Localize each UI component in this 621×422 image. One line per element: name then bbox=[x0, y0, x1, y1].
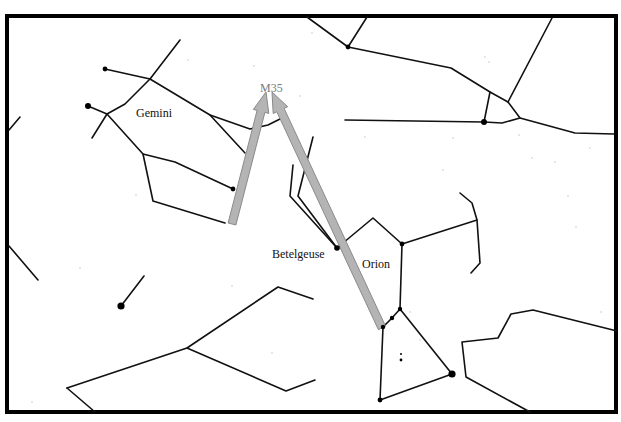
star-horizontal-star bbox=[481, 119, 487, 125]
faint-star bbox=[531, 157, 533, 159]
faint-star bbox=[271, 352, 273, 354]
star-top-star bbox=[346, 45, 351, 50]
faint-star bbox=[79, 267, 81, 269]
star-belt-1 bbox=[381, 325, 385, 329]
faint-star bbox=[135, 194, 137, 196]
star-gemini-star bbox=[231, 187, 236, 192]
faint-star bbox=[31, 401, 33, 403]
faint-star bbox=[231, 285, 233, 287]
star-bellatrix bbox=[400, 242, 405, 247]
star-pollux-area bbox=[103, 67, 108, 72]
faint-star bbox=[452, 137, 454, 139]
faint-star bbox=[484, 56, 486, 58]
star-betelgeuse bbox=[334, 245, 340, 251]
star-saiph bbox=[378, 398, 383, 403]
faint-star bbox=[518, 134, 520, 136]
faint-star bbox=[187, 59, 189, 61]
star-rigel bbox=[448, 370, 455, 377]
faint-star bbox=[364, 136, 366, 138]
star-castor bbox=[85, 103, 91, 109]
label-orion: Orion bbox=[362, 257, 390, 271]
faint-star bbox=[575, 226, 577, 228]
star-belt-3 bbox=[398, 307, 402, 311]
label-m35: M35 bbox=[260, 81, 283, 95]
faint-star bbox=[419, 339, 421, 341]
faint-star bbox=[600, 311, 602, 313]
star-chart: Gemini M35 Betelgeuse Orion bbox=[0, 0, 621, 422]
star-orion-nebula-1 bbox=[400, 359, 403, 362]
star-procyon-area bbox=[117, 302, 124, 309]
faint-star bbox=[409, 311, 411, 313]
label-gemini: Gemini bbox=[136, 106, 173, 120]
faint-star bbox=[299, 95, 301, 97]
faint-star bbox=[589, 147, 591, 149]
star-belt-2 bbox=[390, 316, 394, 320]
faint-star bbox=[488, 61, 490, 63]
star-orion-nebula-2 bbox=[400, 353, 402, 355]
faint-star bbox=[311, 32, 313, 34]
faint-star bbox=[253, 65, 255, 67]
faint-star bbox=[554, 161, 556, 163]
faint-star bbox=[567, 195, 569, 197]
faint-star bbox=[442, 169, 444, 171]
label-betelgeuse: Betelgeuse bbox=[272, 247, 325, 261]
